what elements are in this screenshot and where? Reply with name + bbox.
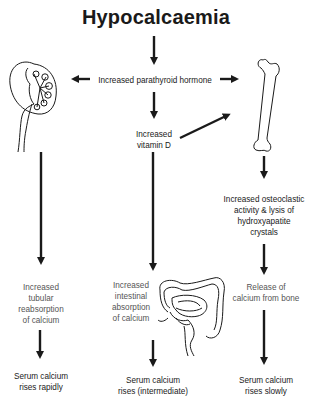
node-vitamin-d-line2: vitamin D [118,139,190,150]
node-release-line1: Release of [228,281,304,292]
outcome-slow: Serum calcium rises slowly [228,374,304,396]
node-intestinal-line1: Increased [104,279,157,290]
node-tubular-reabsorption: Increased tubular reabsorption of calciu… [6,281,77,325]
outcome-intermediate-line2: rises (intermediate) [114,385,191,396]
node-tubular-line4: of calcium [6,314,77,325]
outcome-intermediate: Serum calcium rises (intermediate) [114,374,191,396]
node-intestinal-line4: of calcium [104,312,157,323]
node-tubular-line3: reabsorption [6,303,77,314]
node-osteoclastic-line2: activity & lysis of [219,204,308,215]
femur-bone-icon [254,59,279,151]
node-osteoclastic-line4: crystals [219,226,308,237]
node-osteoclastic-line3: hydroxyapatite [219,215,308,226]
node-intestinal-line3: absorption [104,301,157,312]
outcome-intermediate-line1: Serum calcium [114,374,191,385]
diagram-title: Hypocalcaemia [0,6,312,29]
node-intestinal-line2: intestinal [104,290,157,301]
outcome-slow-line2: rises slowly [228,385,304,396]
kidney-icon [10,62,56,152]
node-vitamin-d-line1: Increased [118,128,190,139]
node-tubular-line1: Increased [6,281,77,292]
node-vitamin-d: Increased vitamin D [118,128,190,150]
outcome-slow-line1: Serum calcium [228,374,304,385]
node-osteoclastic-activity: Increased osteoclastic activity & lysis … [219,193,308,237]
outcome-rapid-line1: Serum calcium [6,370,77,381]
node-calcium-release: Release of calcium from bone [228,281,304,303]
outcome-rapid: Serum calcium rises rapidly [6,370,77,392]
node-tubular-line2: tubular [6,292,77,303]
outcome-rapid-line2: rises rapidly [6,381,77,392]
node-release-line2: calcium from bone [228,292,304,303]
node-intestinal-absorption: Increased intestinal absorption of calci… [104,279,157,323]
node-parathyroid-hormone-text: Increased parathyroid hormone [98,74,212,85]
node-parathyroid-hormone: Increased parathyroid hormone [91,74,220,85]
node-osteoclastic-line1: Increased osteoclastic [219,193,308,204]
intestine-icon [158,278,224,356]
